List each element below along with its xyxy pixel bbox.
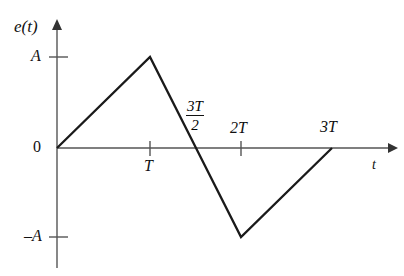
- x-axis-arrow-icon: [388, 143, 398, 153]
- origin-label: 0: [33, 139, 41, 155]
- x-axis-label: t: [372, 158, 376, 172]
- waveform-figure: e(t) A 0 –A T 3T 2 2T 3T t: [0, 0, 404, 276]
- y-axis-label: e(t): [14, 18, 38, 35]
- x-tick-label-T: T: [144, 158, 153, 174]
- fraction-numerator: 3T: [186, 98, 204, 116]
- y-tick-label-A: A: [31, 48, 41, 64]
- waveform-curve: [57, 57, 332, 237]
- y-tick-label-negative-A: –A: [24, 228, 42, 244]
- x-tick-label-3T: 3T: [320, 119, 337, 135]
- x-tick-label-three-halves-T: 3T 2: [186, 98, 204, 133]
- fraction-denominator: 2: [186, 116, 204, 133]
- y-axis-arrow-icon: [52, 19, 62, 30]
- plot-svg: [0, 0, 404, 276]
- x-tick-label-2T: 2T: [230, 120, 247, 136]
